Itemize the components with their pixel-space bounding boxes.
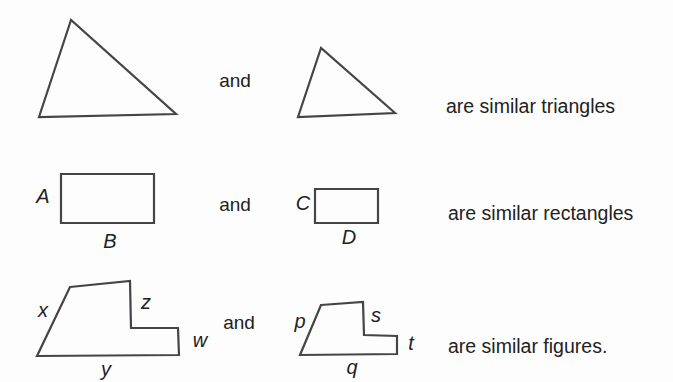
label-t: t (408, 333, 414, 353)
label-w: w (193, 330, 207, 350)
large-step-figure-shape (37, 281, 179, 356)
small-step-figure-shape (300, 302, 397, 355)
large-triangle-shape (39, 20, 176, 117)
label-B: B (103, 231, 116, 251)
label-D: D (342, 227, 356, 247)
label-z: z (141, 292, 151, 312)
label-x: x (38, 300, 48, 320)
large-rectangle-shape (61, 174, 154, 223)
label-p: p (294, 311, 305, 331)
caption-similar-figures: are similar figures. (448, 337, 607, 357)
label-C: C (296, 193, 310, 213)
connector-and-row3: and (223, 313, 255, 332)
caption-similar-rectangles: are similar rectangles (448, 204, 633, 224)
textbook-page: and are similar triangles A B and C D ar… (0, 0, 673, 382)
label-y: y (101, 359, 111, 379)
label-A: A (36, 186, 49, 206)
caption-similar-triangles: are similar triangles (446, 97, 615, 117)
label-s: s (371, 305, 381, 325)
geometry-figures-canvas (0, 0, 673, 382)
label-q: q (346, 357, 357, 377)
small-triangle-shape (298, 48, 395, 117)
small-rectangle-shape (315, 189, 378, 223)
connector-and-row1: and (219, 71, 251, 90)
connector-and-row2: and (219, 195, 251, 214)
